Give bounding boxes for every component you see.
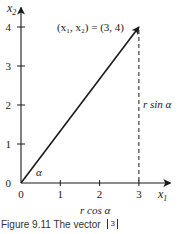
y-axis-label: x2: [6, 1, 16, 17]
y-tick-label: 1: [6, 138, 12, 150]
vector-diagram: 012301234 x2 x1 (x₁, x₂) = (3, 4) α r si…: [0, 0, 180, 215]
caption-text: Figure 9.11 The vector: [1, 219, 101, 230]
angle-alpha-label: α: [36, 166, 42, 178]
x-tick-label: 1: [58, 188, 64, 200]
point-label: (x₁, x₂) = (3, 4): [57, 21, 124, 34]
x-tick-label: 3: [136, 188, 142, 200]
x-tick-label: 2: [97, 188, 103, 200]
y-tick-label: 0: [6, 177, 12, 189]
figure-caption: Figure 9.11 The vector 3: [1, 219, 118, 230]
r-sin-alpha-label: r sin α: [143, 98, 172, 110]
vector-arrow: [21, 27, 139, 183]
x-tick-label: 0: [18, 188, 24, 200]
y-tick-label: 3: [6, 60, 12, 72]
y-tick-label: 2: [6, 99, 12, 111]
y-tick-label: 4: [6, 21, 12, 33]
caption-vector: 3: [107, 219, 117, 229]
r-cos-alpha-label: r cos α: [80, 204, 110, 215]
x-axis-label: x1: [157, 187, 167, 203]
